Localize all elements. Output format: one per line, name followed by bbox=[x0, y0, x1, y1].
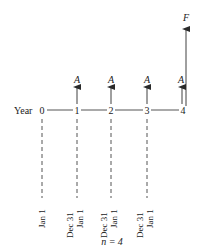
date-label-dec31-3: Dec 31 bbox=[135, 212, 145, 238]
cash-flow-diagram: Year 0 1 2 3 4 A A A A F bbox=[0, 0, 199, 252]
year-2: 2 bbox=[109, 105, 114, 116]
date-marker-lines bbox=[42, 119, 147, 198]
date-label-jan1-1: Jan 1 bbox=[75, 209, 85, 228]
annuity-label-4: A bbox=[177, 74, 185, 85]
year-axis-label: Year bbox=[14, 105, 33, 116]
date-label-dec31-2: Dec 31 bbox=[99, 212, 109, 238]
annuity-label-1: A bbox=[73, 74, 81, 85]
date-label-jan1-2: Jan 1 bbox=[109, 209, 119, 228]
date-label-jan1-0: Jan 1 bbox=[37, 209, 47, 228]
annuity-arrows bbox=[77, 87, 182, 104]
year-3: 3 bbox=[145, 105, 150, 116]
date-label-dec31-1: Dec 31 bbox=[65, 212, 75, 238]
year-4: 4 bbox=[181, 105, 186, 116]
year-0: 0 bbox=[40, 105, 45, 116]
annuity-label-2: A bbox=[107, 74, 115, 85]
year-1: 1 bbox=[75, 105, 80, 116]
annuity-label-3: A bbox=[143, 74, 151, 85]
future-value-label: F bbox=[182, 12, 190, 23]
period-count-caption: n = 4 bbox=[101, 236, 123, 247]
date-label-jan1-3: Jan 1 bbox=[145, 209, 155, 228]
